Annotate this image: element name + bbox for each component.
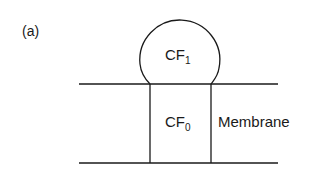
cf1-label: CF1 — [165, 46, 191, 66]
membrane-label: Membrane — [218, 113, 290, 130]
atp-synthase-diagram: (a) CF1 CF0 Membrane — [0, 0, 328, 178]
panel-label: (a) — [22, 23, 39, 39]
cf0-label: CF0 — [165, 113, 191, 133]
